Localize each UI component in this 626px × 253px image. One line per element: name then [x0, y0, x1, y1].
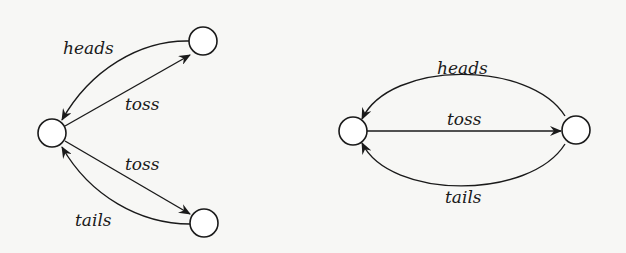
- diagram-branching: heads toss toss tails: [38, 27, 218, 237]
- edge-tails-right-to-left: [362, 143, 565, 186]
- state-node-left: [339, 117, 367, 145]
- edge-label-tails: tails: [75, 210, 112, 230]
- edge-label-heads: heads: [437, 58, 488, 78]
- state-node-start: [38, 119, 66, 147]
- state-node-tails: [190, 209, 218, 237]
- edge-label-tails: tails: [445, 187, 482, 207]
- edge-label-toss-lower: toss: [125, 154, 160, 174]
- state-node-heads: [189, 27, 217, 55]
- state-node-right: [562, 116, 590, 144]
- edge-label-toss: toss: [447, 109, 482, 129]
- edge-label-heads: heads: [63, 38, 114, 58]
- edge-label-toss-upper: toss: [125, 94, 160, 114]
- diagram-two-state: heads toss tails: [339, 58, 590, 207]
- diagram-canvas: heads toss toss tails heads toss tails: [0, 0, 626, 253]
